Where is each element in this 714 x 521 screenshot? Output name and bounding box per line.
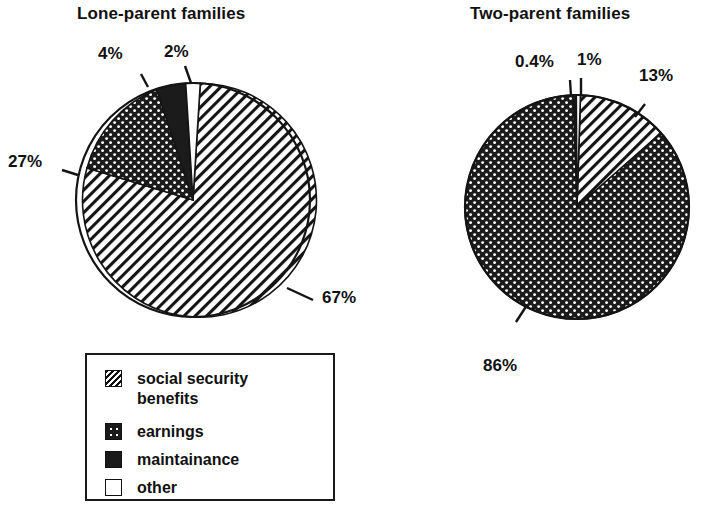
label-right-earnings: 86%: [483, 356, 517, 376]
pie-lone-parent: [62, 66, 316, 317]
leader-right-86pct: [516, 305, 527, 322]
swatch-maintainance-icon: [105, 451, 122, 468]
leader-left-4pct: [141, 74, 148, 87]
swatch-social-security-icon: [105, 370, 122, 387]
legend-item-other[interactable]: other: [105, 478, 177, 498]
legend-label-social-security: social security benefits: [137, 369, 248, 409]
leader-left-2pct: [185, 66, 191, 83]
label-right-other: 1%: [577, 50, 602, 70]
chart-title-lone-parent: Lone-parent families: [77, 4, 245, 24]
figure-canvas: Lone-parent families Two-parent families…: [0, 0, 714, 521]
swatch-earnings-icon: [105, 423, 122, 440]
chart-title-two-parent: Two-parent families: [470, 4, 630, 24]
label-right-maintainance: 0.4%: [515, 52, 554, 72]
swatch-other-icon: [105, 479, 122, 496]
legend-label-earnings: earnings: [137, 422, 204, 442]
pie-two-parent: [465, 78, 689, 322]
legend-label-maintainance: maintainance: [137, 450, 239, 470]
label-left-earnings: 27%: [8, 152, 42, 172]
label-left-other: 2%: [164, 42, 189, 62]
legend-item-maintainance[interactable]: maintainance: [105, 450, 239, 470]
legend-item-earnings[interactable]: earnings: [105, 422, 204, 442]
leader-right-04pct: [570, 80, 571, 96]
leader-left-67pct: [287, 288, 313, 300]
legend-label-other: other: [137, 478, 177, 498]
legend-item-social-security[interactable]: social security benefits: [105, 369, 248, 409]
label-right-social-security: 13%: [639, 66, 673, 86]
legend: social security benefits earnings mainta…: [85, 353, 335, 501]
label-left-social-security: 67%: [322, 288, 356, 308]
label-left-maintainance: 4%: [98, 44, 123, 64]
leader-left-27pct: [62, 170, 78, 175]
